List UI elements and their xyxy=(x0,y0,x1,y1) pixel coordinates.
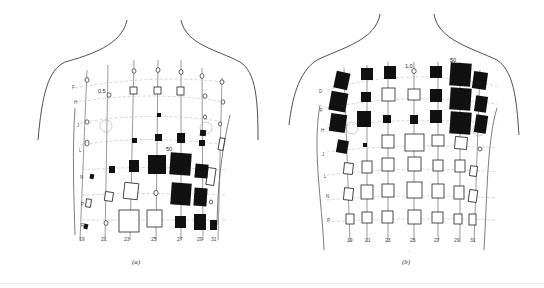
row-label: F xyxy=(320,108,323,113)
column-label: 27 xyxy=(434,237,440,243)
scale-label: 0.5 xyxy=(98,88,106,94)
body-map-panel-b: D F H J L N P xyxy=(272,0,544,270)
torso-diagram-a: F H J L N P R xyxy=(0,0,272,270)
column-label: 31 xyxy=(470,237,476,243)
row-label: L xyxy=(79,148,82,153)
column-label: 27 xyxy=(177,236,183,242)
row-label: J xyxy=(77,123,79,128)
row-label: D xyxy=(319,89,323,94)
row-label: H xyxy=(74,100,77,105)
torso-diagram-b: D F H J L N P xyxy=(272,0,544,270)
value-label: 50 xyxy=(450,57,456,63)
column-label: 29 xyxy=(197,236,203,242)
row-label: P xyxy=(327,218,330,223)
row-label: N xyxy=(80,175,83,180)
row-label: H xyxy=(321,128,324,133)
column-label: 25 xyxy=(410,237,416,243)
row-label: P xyxy=(81,202,84,207)
row-label: F xyxy=(72,85,75,90)
column-label: 25 xyxy=(151,236,157,242)
column-label: 29 xyxy=(454,237,460,243)
row-label: N xyxy=(326,194,329,199)
column-label: 23 xyxy=(124,236,130,242)
column-label: 31 xyxy=(211,236,217,242)
column-label: 23 xyxy=(385,237,391,243)
column-label: 21 xyxy=(101,236,107,242)
row-label: J xyxy=(322,152,324,157)
body-map-panel-a: F H J L N P R xyxy=(0,0,272,270)
value-label: 50 xyxy=(166,146,172,152)
panel-caption-a: (a) xyxy=(132,258,140,266)
panel-caption-b: (b) xyxy=(402,258,410,266)
column-label: 19 xyxy=(79,236,85,242)
marker-tick: ~ xyxy=(408,249,411,254)
scale-label: 1.0 xyxy=(405,63,413,69)
bottom-divider xyxy=(0,283,544,284)
row-label: L xyxy=(324,174,327,179)
column-label: 21 xyxy=(365,237,371,243)
column-label: 19 xyxy=(347,237,353,243)
